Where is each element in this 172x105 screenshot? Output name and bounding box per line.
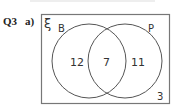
set-p-circle <box>88 24 162 98</box>
set-b-label: B <box>58 23 65 34</box>
intersection-count: 7 <box>103 56 110 69</box>
outside-count: 3 <box>157 91 163 102</box>
b-only-count: 12 <box>70 56 84 69</box>
p-only-count: 11 <box>131 56 145 69</box>
venn-diagram: ξ B P 12 7 11 3 <box>0 0 172 105</box>
set-p-label: P <box>148 23 154 34</box>
universal-symbol: ξ <box>44 16 51 31</box>
set-b-circle <box>52 24 126 98</box>
